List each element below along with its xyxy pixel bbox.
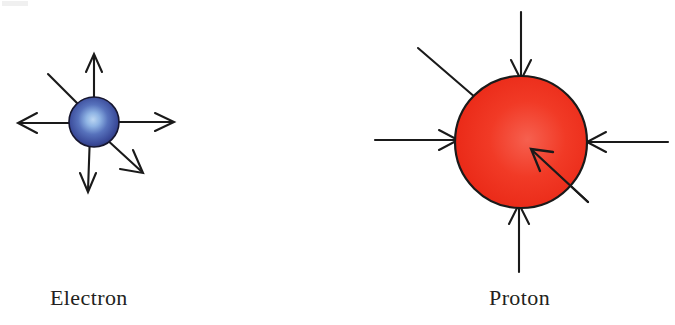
proton-arrow-from-left (375, 130, 458, 150)
electron-label: Electron (50, 285, 128, 311)
proton-line-upper-left (418, 48, 476, 98)
proton-label: Proton (489, 285, 550, 311)
proton-circle (455, 76, 587, 208)
electron-group (18, 54, 174, 192)
proton-arrow-from-top (511, 12, 531, 80)
proton-group (375, 12, 668, 272)
proton-arrow-from-right (587, 132, 668, 152)
physics-field-diagram (0, 0, 675, 325)
proton-arrow-from-bottom (509, 204, 529, 272)
electron-sphere (69, 97, 119, 147)
